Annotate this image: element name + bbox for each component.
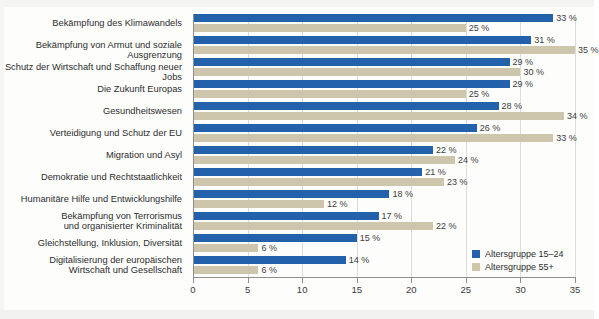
bar-value-label: 29 % [513, 80, 534, 88]
bar-row[interactable]: 22 %24 % [193, 146, 575, 168]
bar-age-55-plus[interactable] [193, 24, 466, 32]
legend-item[interactable]: Altersgruppe 15–24 [472, 249, 564, 259]
x-axis-tick-label: 20 [406, 284, 417, 295]
legend-label: Altersgruppe 55+ [485, 262, 554, 272]
bar-value-label: 12 % [327, 200, 348, 208]
bar-age-15-24[interactable] [193, 14, 553, 22]
bar-value-label: 26 % [480, 124, 501, 132]
legend-item[interactable]: Altersgruppe 55+ [472, 262, 564, 272]
bar-age-15-24[interactable] [193, 168, 422, 176]
bar-age-15-24[interactable] [193, 190, 389, 198]
x-axis-tick [520, 278, 521, 283]
bar-value-label: 25 % [469, 90, 490, 98]
bar-age-15-24[interactable] [193, 234, 357, 242]
bar-age-55-plus[interactable] [193, 244, 258, 252]
bar-age-15-24[interactable] [193, 212, 379, 220]
bar-age-55-plus[interactable] [193, 134, 553, 142]
bar-age-15-24[interactable] [193, 256, 346, 264]
bar-age-55-plus[interactable] [193, 200, 324, 208]
bar-age-55-plus[interactable] [193, 90, 466, 98]
bar-age-15-24[interactable] [193, 36, 531, 44]
bar-age-55-plus[interactable] [193, 112, 564, 120]
category-label: Humanitäre Hilfe und Entwicklungshilfe [0, 194, 182, 205]
category-label: Verteidigung und Schutz der EU [0, 128, 182, 139]
bar-row[interactable]: 31 %35 % [193, 36, 575, 58]
bar-row[interactable]: 17 %22 % [193, 212, 575, 234]
category-label: Bekämpfung des Klimawandels [0, 18, 182, 29]
category-label-line: Schutz der Wirtschaft und Schaffung neue… [0, 62, 182, 83]
x-axis-tick [411, 278, 412, 283]
bar-age-15-24[interactable] [193, 146, 433, 154]
bar-row[interactable]: 26 %33 % [193, 124, 575, 146]
bar-row[interactable]: 28 %34 % [193, 102, 575, 124]
plot-area: 33 %25 %31 %35 %29 %30 %29 %25 %28 %34 %… [193, 14, 575, 278]
bar-value-label: 18 % [392, 190, 413, 198]
category-label: Demokratie und Rechtstaatlichkeit [0, 172, 182, 183]
bar-value-label: 15 % [360, 234, 381, 242]
category-label-line: Bekämpfung von Terrorismus [0, 211, 182, 222]
x-axis-tick-label: 5 [245, 284, 250, 295]
bar-value-label: 29 % [513, 58, 534, 66]
category-label-line: Bekämpfung des Klimawandels [0, 18, 182, 29]
bar-value-label: 30 % [523, 68, 544, 76]
bar-age-55-plus[interactable] [193, 156, 455, 164]
category-label-line: und organisierter Kriminalität [0, 221, 182, 232]
category-label-line: Wirtschaft und Gesellschaft [0, 265, 182, 276]
bar-row[interactable]: 21 %23 % [193, 168, 575, 190]
x-axis-tick [193, 278, 194, 283]
bar-value-label: 24 % [458, 156, 479, 164]
bar-age-55-plus[interactable] [193, 266, 258, 274]
legend-swatch-icon [472, 250, 480, 258]
x-axis-tick [575, 278, 576, 283]
bar-age-55-plus[interactable] [193, 222, 433, 230]
x-axis-tick-label: 10 [297, 284, 308, 295]
bar-age-15-24[interactable] [193, 58, 510, 66]
bar-value-label: 31 % [534, 36, 555, 44]
category-label: Schutz der Wirtschaft und Schaffung neue… [0, 62, 182, 83]
category-label-line: Digitalisierung der europäischen [0, 255, 182, 266]
category-label: Bekämpfung von Armut und soziale Ausgren… [0, 40, 182, 61]
category-label-line: Gesundheitswesen [0, 106, 182, 117]
bar-value-label: 22 % [436, 222, 457, 230]
x-axis-tick [357, 278, 358, 283]
bar-value-label: 21 % [425, 168, 446, 176]
bar-age-15-24[interactable] [193, 80, 510, 88]
x-axis-tick-label: 30 [515, 284, 526, 295]
bar-age-55-plus[interactable] [193, 68, 520, 76]
bar-value-label: 35 % [578, 46, 599, 54]
bar-value-label: 25 % [469, 24, 490, 32]
category-label: Migration und Asyl [0, 150, 182, 161]
bar-age-15-24[interactable] [193, 124, 477, 132]
bar-age-55-plus[interactable] [193, 178, 444, 186]
bar-row[interactable]: 18 %12 % [193, 190, 575, 212]
legend-swatch-icon [472, 263, 480, 271]
x-axis-tick-label: 0 [190, 284, 195, 295]
bar-value-label: 33 % [556, 134, 577, 142]
bar-value-label: 14 % [349, 256, 370, 264]
gridline [575, 14, 576, 278]
bar-value-label: 23 % [447, 178, 468, 186]
bar-row[interactable]: 29 %30 % [193, 58, 575, 80]
scan-edge-bottom [0, 310, 594, 319]
category-label: Digitalisierung der europäischenWirtscha… [0, 255, 182, 276]
x-axis-tick [302, 278, 303, 283]
legend: Altersgruppe 15–24Altersgruppe 55+ [472, 249, 564, 275]
x-axis-tick [248, 278, 249, 283]
category-label: Die Zukunft Europas [0, 84, 182, 95]
bar-age-55-plus[interactable] [193, 46, 575, 54]
category-label-line: Humanitäre Hilfe und Entwicklungshilfe [0, 194, 182, 205]
category-label-line: Die Zukunft Europas [0, 84, 182, 95]
bar-value-label: 6 % [261, 244, 277, 252]
y-axis-line [193, 14, 194, 278]
bar-age-15-24[interactable] [193, 102, 499, 110]
legend-label: Altersgruppe 15–24 [485, 249, 564, 259]
scan-edge-top [0, 0, 594, 7]
bar-value-label: 33 % [556, 14, 577, 22]
bar-value-label: 6 % [261, 266, 277, 274]
bar-row[interactable]: 29 %25 % [193, 80, 575, 102]
x-axis-tick-label: 15 [351, 284, 362, 295]
category-label-line: Bekämpfung von Armut und soziale Ausgren… [0, 40, 182, 61]
bar-row[interactable]: 33 %25 % [193, 14, 575, 36]
x-axis-tick [466, 278, 467, 283]
